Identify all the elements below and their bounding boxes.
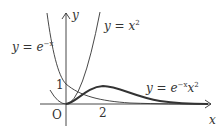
label-x-squared: y = x2	[103, 19, 140, 33]
y-tick-label-1: 1	[56, 78, 64, 92]
origin-label: O	[52, 108, 62, 122]
label-exp-neg-x: y = e−x	[11, 40, 53, 54]
y-axis-label: y	[71, 8, 79, 22]
labels: y x O 2 1 y = e−x y = x2 y = e−xx2	[11, 8, 216, 127]
function-graph: y x O 2 1 y = e−x y = x2 y = e−xx2	[0, 0, 222, 137]
x-tick-label-2: 2	[99, 106, 107, 120]
label-exp-neg-x-times-x-squared: y = e−xx2	[145, 81, 199, 95]
x-axis-label: x	[209, 113, 216, 127]
